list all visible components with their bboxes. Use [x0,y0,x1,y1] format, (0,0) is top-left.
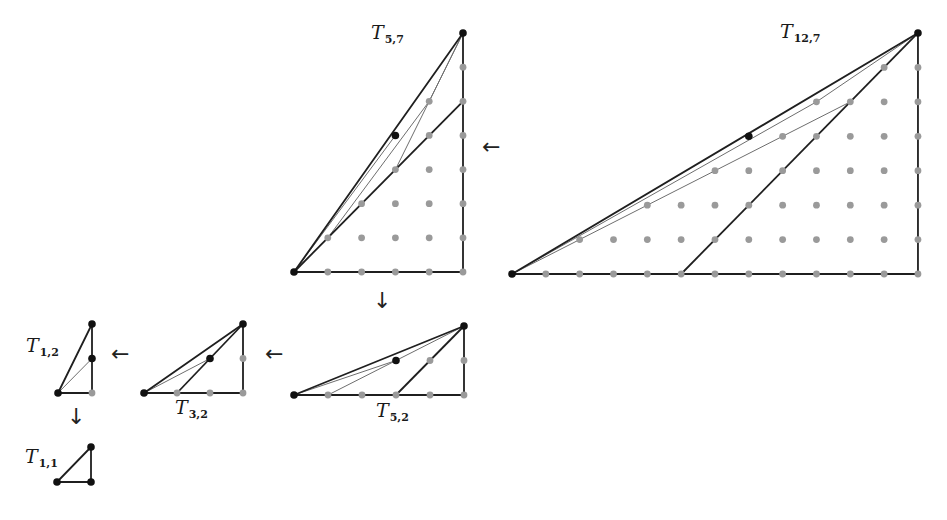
lattice-point [813,236,820,243]
lattice-point [847,236,854,243]
lattice-point [881,98,888,105]
special-lattice-point [745,132,753,140]
lattice-point [813,167,820,174]
lattice-point [426,200,433,207]
lattice-point [678,271,685,278]
lattice-point [460,166,467,173]
lattice-point [881,167,888,174]
lattice-point [847,202,854,209]
vertex-origin [140,389,148,397]
triangle-T5_7 [290,29,467,276]
lattice-point [240,390,247,397]
lattice-point [915,64,922,71]
lattice-point [813,271,820,278]
lattice-point [678,202,685,209]
lattice-point [779,236,786,243]
vertex-apex [460,322,468,330]
lattice-point [745,167,752,174]
lattice-point [881,202,888,209]
lattice-point [915,98,922,105]
thin-line [294,361,396,396]
lattice-point [426,234,433,241]
vertex-origin [54,389,62,397]
lattice-triangle-diagram [0,0,947,520]
special-lattice-point [206,355,214,363]
label-T1_1: T1,1 [25,447,58,469]
label-subscript: 3,2 [189,408,208,421]
vertex-apex [239,320,247,328]
arrow-t5-2-to-t3-2-icon: ← [265,343,283,365]
arrow-t1-2-to-t1-1-icon: ↓ [67,406,85,428]
lattice-point [460,64,467,71]
lattice-point [745,271,752,278]
lattice-dots [89,390,96,397]
lattice-point [847,133,854,140]
label-subscript: 1,2 [40,346,59,359]
vertex-apex [87,443,95,451]
lattice-point [678,236,685,243]
lattice-point [358,234,365,241]
lattice-point [392,234,399,241]
label-main: T [25,445,38,467]
lattice-point [576,271,583,278]
lattice-point [460,98,467,105]
lattice-point [89,390,96,397]
lattice-point [644,271,651,278]
lattice-point [915,202,922,209]
label-subscript: 5,2 [390,411,409,424]
lattice-point [712,202,719,209]
arrow-t5-7-to-t5-2-icon: ↓ [373,290,391,312]
label-T1_2: T1,2 [26,336,59,358]
shear-line [294,101,463,272]
vertex-origin [290,268,298,276]
triangle-T1_1 [53,443,95,486]
label-subscript: 1,1 [39,457,58,470]
vertex-apex [914,29,922,37]
lattice-point [813,133,820,140]
lattice-point [915,133,922,140]
lattice-point [915,236,922,243]
lattice-point [881,133,888,140]
lattice-point [460,234,467,241]
lattice-point [324,269,331,276]
label-T12_7: T12,7 [780,22,820,44]
lattice-point [915,167,922,174]
thin-line [512,102,850,274]
lattice-point [392,269,399,276]
lattice-dots [542,64,921,277]
label-T3_2: T3,2 [175,398,208,420]
vertex-origin [508,270,516,278]
lattice-point [847,98,854,105]
lattice-point [779,271,786,278]
lattice-point [813,202,820,209]
label-subscript: 12,7 [794,32,821,45]
triangle-T1_2 [54,320,96,397]
lattice-point [426,166,433,173]
label-T5_7: T5,7 [371,23,404,45]
thin-line [144,359,210,394]
lattice-point [426,98,433,105]
label-T5_2: T5,2 [376,401,409,423]
lattice-point [325,392,332,399]
lattice-point [392,166,399,173]
lattice-point [745,202,752,209]
arrow-t3-2-to-t1-2-icon: ← [111,343,129,365]
lattice-point [461,357,468,364]
label-main: T [26,334,39,356]
lattice-point [207,390,214,397]
label-main: T [376,399,389,421]
lattice-point [460,200,467,207]
triangle-outline [294,33,463,272]
lattice-point [393,392,400,399]
triangle-T12_7 [508,29,922,278]
lattice-dots [324,64,466,276]
arrow-t12-to-t5-7-icon: ← [482,136,500,158]
lattice-point [427,357,434,364]
lattice-point [240,355,247,362]
vertex-apex [459,29,467,37]
lattice-point [712,271,719,278]
lattice-point [712,236,719,243]
lattice-point [610,236,617,243]
lattice-point [426,269,433,276]
triangle-outline [144,324,243,393]
